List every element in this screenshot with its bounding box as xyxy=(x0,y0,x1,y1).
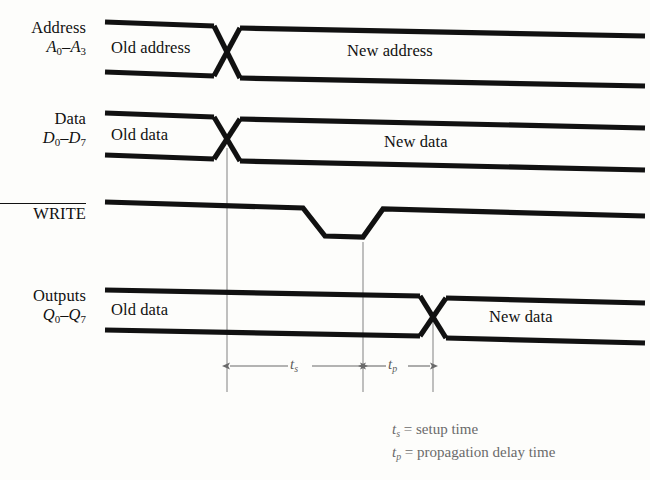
bus-label-data-new: New data xyxy=(384,132,448,152)
waveform-write xyxy=(105,202,645,237)
address-new-bottom-rail xyxy=(240,78,645,86)
legend-equals-t-setup: = xyxy=(404,421,412,437)
bus-label-data-old: Old data xyxy=(111,125,168,145)
address-new-top-rail xyxy=(240,28,645,36)
bus-label-address-new: New address xyxy=(347,41,433,61)
waveform-outputs xyxy=(105,290,645,343)
legend-row-t-setup: ts = setup time xyxy=(392,418,555,441)
waveform-data xyxy=(105,113,645,170)
signal-label-outputs-range: Q0–Q7 xyxy=(0,305,86,326)
signal-label-write: WRITE xyxy=(0,203,86,222)
address-old-bottom-rail xyxy=(105,72,214,76)
reference-lines xyxy=(227,148,433,392)
signal-label-outputs-name: Outputs xyxy=(0,286,86,305)
signal-label-address-name: Address xyxy=(0,18,86,37)
timing-diagram-canvas xyxy=(0,0,650,480)
outputs-new-bottom-rail xyxy=(446,338,645,343)
bus-label-address-old: Old address xyxy=(111,38,190,58)
measurement-symbol-t-setup: ts xyxy=(290,356,298,374)
timing-diagram-figure: Address A0–A3 Data D0–D7 WRITE Outputs Q… xyxy=(0,0,650,480)
signal-label-write-name: WRITE xyxy=(0,203,86,222)
bus-label-outputs-new: New data xyxy=(489,307,553,327)
legend-symbol-t-prop: tp xyxy=(392,444,401,460)
legend-text-t-prop: propagation delay time xyxy=(417,444,555,460)
bus-label-outputs-old: Old data xyxy=(111,300,168,320)
data-new-top-rail xyxy=(240,119,645,128)
signal-label-address-range: A0–A3 xyxy=(0,37,86,58)
legend-row-t-prop: tp = propagation delay time xyxy=(392,441,555,464)
outputs-old-top-rail xyxy=(105,290,420,296)
address-old-top-rail xyxy=(105,22,214,26)
signal-label-address: Address A0–A3 xyxy=(0,18,86,58)
signal-label-data-name: Data xyxy=(0,109,86,128)
signal-label-data: Data D0–D7 xyxy=(0,109,86,149)
signal-label-data-range: D0–D7 xyxy=(0,128,86,149)
legend-symbol-t-setup: ts xyxy=(392,421,400,437)
outputs-old-bottom-rail xyxy=(105,330,420,336)
signal-label-outputs: Outputs Q0–Q7 xyxy=(0,286,86,326)
legend: ts = setup time tp = propagation delay t… xyxy=(392,418,555,465)
legend-equals-t-prop: = xyxy=(405,444,413,460)
outputs-new-top-rail xyxy=(446,298,645,303)
write-active-low-pulse xyxy=(105,202,645,237)
data-old-bottom-rail xyxy=(105,155,214,159)
legend-text-t-setup: setup time xyxy=(416,421,478,437)
measurement-symbol-t-prop: tp xyxy=(388,356,397,374)
data-old-top-rail xyxy=(105,113,214,117)
data-new-bottom-rail xyxy=(240,161,645,170)
